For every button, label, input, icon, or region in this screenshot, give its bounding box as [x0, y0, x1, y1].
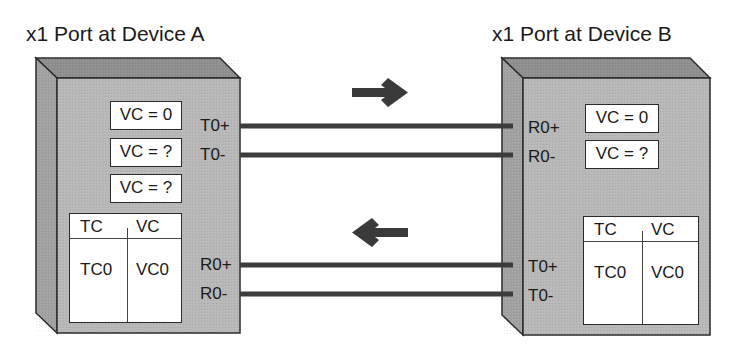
device-a-r0-plus-label: R0+ [200, 256, 232, 273]
device-b-vc-buffer-0: VC = 0 [585, 104, 659, 133]
device-b-vc-buffer-1: VC = ? [585, 140, 659, 169]
map-cell-tc0: TC0 [80, 261, 112, 278]
map-header-vc: VC [651, 221, 675, 238]
device-b-top-face [502, 58, 710, 78]
link-lines [240, 126, 513, 294]
map-cell-tc0: TC0 [594, 264, 626, 281]
device-a-t0-minus-label: T0- [200, 146, 226, 163]
map-header-tc: TC [80, 218, 103, 235]
device-b-tc-vc-map: TC VC TC0 VC0 [583, 216, 699, 325]
device-a-t0-plus-label: T0+ [200, 117, 230, 134]
map-column-divider [642, 231, 643, 324]
map-header-vc: VC [136, 218, 160, 235]
device-b-r0-plus-label: R0+ [528, 119, 560, 136]
device-a-r0-minus-label: R0- [200, 285, 227, 302]
device-a-vc-buffer-2: VC = ? [110, 174, 182, 203]
device-b-t0-plus-label: T0+ [528, 258, 558, 275]
map-column-divider [127, 228, 128, 322]
map-cell-vc0: VC0 [651, 264, 684, 281]
left-arrow-icon [352, 218, 408, 247]
device-b-r0-minus-label: R0- [528, 148, 555, 165]
device-a-top-face [36, 58, 240, 78]
device-a-vc-buffer-1: VC = ? [110, 138, 182, 167]
device-a-vc-buffer-0: VC = 0 [110, 101, 182, 130]
device-a-side-face [36, 58, 57, 333]
right-arrow-icon [352, 78, 408, 107]
map-header-tc: TC [594, 221, 617, 238]
device-b-t0-minus-label: T0- [528, 287, 554, 304]
device-a-tc-vc-map: TC VC TC0 VC0 [69, 213, 182, 323]
map-cell-vc0: VC0 [136, 261, 169, 278]
